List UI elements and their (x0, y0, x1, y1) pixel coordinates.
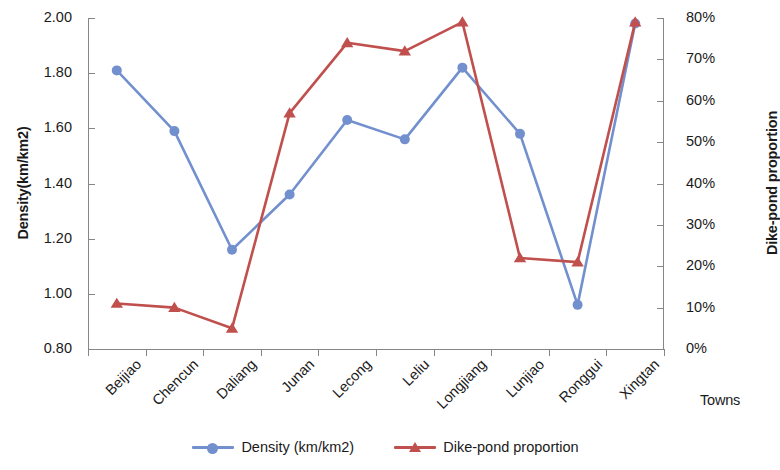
legend-label-dike-pond: Dike-pond proportion (443, 439, 578, 455)
y-axis-right-title: Dike-pond proportion (764, 83, 780, 283)
data-point-circle-icon[interactable] (169, 126, 179, 136)
y-axis-right-tick: 40% (686, 176, 715, 191)
x-axis-title: Towns (700, 392, 740, 408)
y-axis-right-tick: 80% (686, 10, 715, 25)
data-point-circle-icon[interactable] (112, 65, 122, 75)
data-point-triangle-icon[interactable] (341, 37, 353, 47)
legend-label-density: Density (km/km2) (241, 439, 354, 455)
data-point-circle-icon[interactable] (227, 245, 237, 255)
legend-marker-triangle-icon (394, 440, 436, 454)
tick-mark (664, 349, 665, 356)
y-axis-right-tick: 70% (686, 51, 715, 66)
data-point-circle-icon[interactable] (457, 63, 467, 73)
y-axis-right-tick: 60% (686, 93, 715, 108)
data-point-circle-icon[interactable] (342, 115, 352, 125)
y-axis-left-tick: 2.00 (44, 10, 72, 25)
y-axis-right-tick: 20% (686, 258, 715, 273)
data-point-triangle-icon[interactable] (456, 16, 468, 26)
data-point-circle-icon[interactable] (573, 300, 583, 310)
y-axis-left-tick: 1.40 (44, 176, 72, 191)
x-axis-category-labels: BeijiaoChencunDaliangJunanLecongLeliuLon… (88, 352, 664, 412)
y-axis-left-tick: 1.20 (44, 231, 72, 246)
data-point-circle-icon[interactable] (400, 134, 410, 144)
plot-area (88, 18, 664, 349)
y-axis-left-tick: 1.60 (44, 120, 72, 135)
data-point-circle-icon[interactable] (515, 129, 525, 139)
y-axis-right-tick: 50% (686, 134, 715, 149)
y-axis-left-tick: 1.80 (44, 65, 72, 80)
y-axis-left-tick-labels: 0.801.001.201.401.601.802.00 (0, 0, 72, 370)
y-axis-right-tick: 30% (686, 217, 715, 232)
legend-item-density[interactable]: Density (km/km2) (192, 439, 354, 455)
y-axis-left-tick: 1.00 (44, 286, 72, 301)
y-axis-right-tick: 0% (686, 341, 707, 356)
series-plot (88, 18, 664, 350)
legend-marker-circle-icon (192, 440, 234, 454)
legend-item-dike-pond[interactable]: Dike-pond proportion (394, 439, 578, 455)
data-point-circle-icon[interactable] (285, 190, 295, 200)
series-line (117, 24, 635, 305)
y-axis-right-tick: 10% (686, 300, 715, 315)
y-axis-left-tick: 0.80 (44, 341, 72, 356)
chart-legend: Density (km/km2) Dike-pond proportion (0, 434, 771, 460)
y-axis-right-tick-labels: 0%10%20%30%40%50%60%70%80% (686, 0, 746, 370)
